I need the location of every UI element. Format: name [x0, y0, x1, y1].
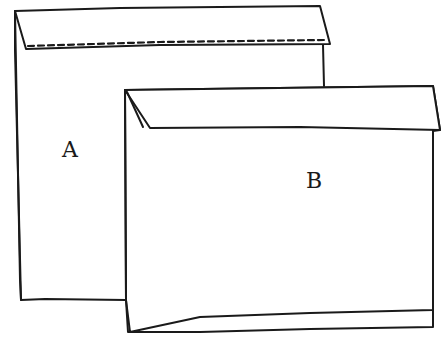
label-b: B: [306, 168, 322, 193]
envelopes-diagram: [0, 0, 441, 353]
label-a: A: [62, 137, 78, 162]
envelope-b-flap: [125, 86, 440, 130]
envelope-b: [125, 86, 440, 332]
